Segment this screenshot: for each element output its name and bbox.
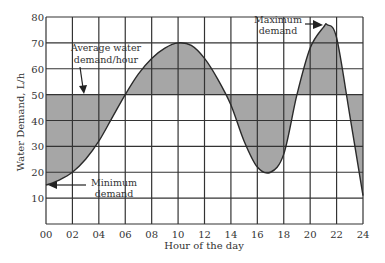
y-tick-label: 10 [31,193,44,204]
y-axis-title: Water Demand, L/h [15,72,26,171]
x-tick-label: 18 [277,229,290,240]
arrow-head-icon [79,85,87,94]
x-tick-label: 22 [330,229,343,240]
y-tick-label: 80 [31,12,44,23]
annotation-minimum: Minimum demand [48,177,137,199]
annotation-maximum-line1: Maximum [254,14,302,25]
annotation-minimum-line1: Minimum [91,177,137,188]
water-demand-chart: 00020406081012141618202224 1020304050607… [0,0,385,263]
arrow-line [80,67,83,88]
x-tick-label: 02 [66,229,79,240]
y-tick-label: 40 [31,116,44,127]
x-axis-ticks: 00020406081012141618202224 [40,229,370,240]
x-tick-label: 12 [198,229,211,240]
x-tick-label: 06 [119,229,132,240]
y-tick-label: 50 [31,90,44,101]
x-tick-label: 00 [40,229,53,240]
y-tick-label: 30 [31,141,44,152]
x-tick-label: 08 [145,229,158,240]
x-tick-label: 20 [304,229,317,240]
annotation-maximum-line2: demand [259,25,298,36]
y-tick-label: 60 [31,64,44,75]
x-tick-label: 24 [357,229,370,240]
x-axis-title: Hour of the day [164,240,244,251]
x-tick-label: 16 [251,229,264,240]
y-tick-label: 70 [31,38,44,49]
annotation-average-line1: Average water [70,42,142,53]
y-tick-label: 20 [31,167,44,178]
arrow-head-icon [313,20,323,29]
annotation-average-line2: demand/hour [74,54,139,65]
annotation-minimum-line2: demand [95,188,134,199]
x-tick-label: 04 [92,229,105,240]
x-tick-label: 14 [225,229,238,240]
y-axis-ticks: 1020304050607080 [31,12,44,204]
x-tick-label: 10 [172,229,185,240]
